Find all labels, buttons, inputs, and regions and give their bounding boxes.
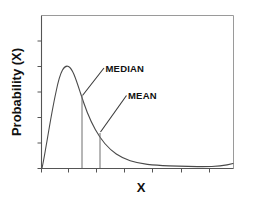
chart-background bbox=[0, 0, 257, 207]
mean-label: MEAN bbox=[128, 90, 157, 101]
x-axis-title: X bbox=[137, 180, 146, 195]
probability-distribution-chart: MEDIAN MEAN X Probability (X) bbox=[0, 0, 257, 207]
chart-page: MEDIAN MEAN X Probability (X) bbox=[0, 0, 257, 207]
y-axis-title: Probability (X) bbox=[9, 48, 24, 136]
median-label: MEDIAN bbox=[106, 63, 145, 74]
